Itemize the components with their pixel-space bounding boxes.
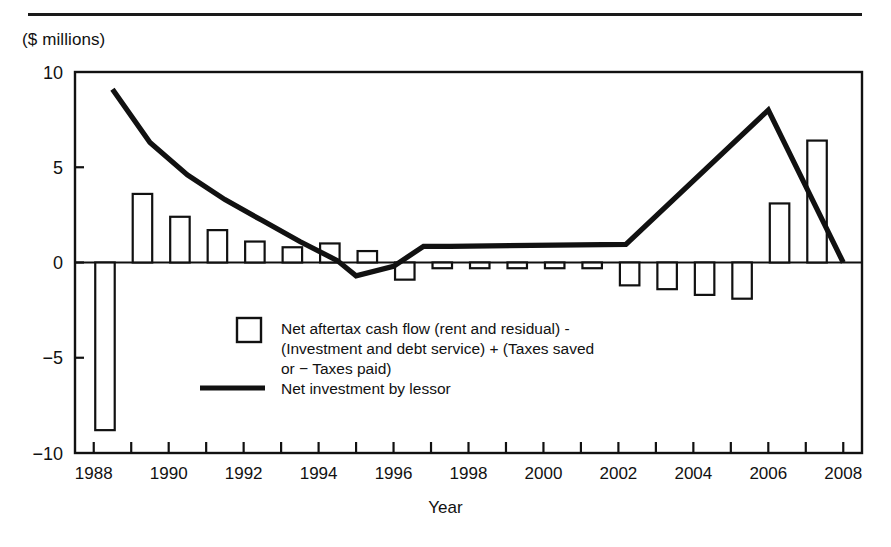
bar-1992 <box>245 242 264 263</box>
x-axis-tick-label: 2008 <box>824 464 862 483</box>
bar-2005 <box>732 263 751 299</box>
x-axis-title: Year <box>0 498 891 518</box>
bar-2002 <box>620 263 639 286</box>
x-axis-tick-label: 2000 <box>525 464 563 483</box>
bar-1995 <box>358 251 377 262</box>
figure-container: ($ millions) 1050−5−10198819901992199419… <box>0 0 891 547</box>
bar-1990 <box>170 217 189 263</box>
y-axis-tick-label: −10 <box>32 444 63 464</box>
bar-1991 <box>208 230 227 262</box>
bar-1998 <box>470 263 489 269</box>
legend-label-cash-flow-line3: or − Taxes paid) <box>281 360 391 377</box>
bar-2000 <box>545 263 564 269</box>
bar-2006 <box>770 203 789 262</box>
y-axis-tick-label: 10 <box>43 63 63 83</box>
chart-svg: 1050−5−101988199019921994199619982000200… <box>0 0 891 547</box>
bar-2003 <box>657 263 676 290</box>
bar-2007 <box>807 141 826 263</box>
legend-label-net-investment: Net investment by lessor <box>281 380 451 397</box>
x-axis-tick-label: 1992 <box>225 464 263 483</box>
x-axis-tick-label: 1998 <box>450 464 488 483</box>
bar-1993 <box>283 247 302 262</box>
bar-2004 <box>695 263 714 295</box>
x-axis-tick-label: 1988 <box>75 464 113 483</box>
bar-1999 <box>507 263 526 269</box>
x-axis-tick-label: 2002 <box>599 464 637 483</box>
x-axis-tick-label: 1990 <box>150 464 188 483</box>
bar-1988 <box>95 263 114 431</box>
bar-1997 <box>433 263 452 269</box>
legend-label-cash-flow-line2: (Investment and debt service) + (Taxes s… <box>281 340 594 357</box>
x-axis-tick-label: 2004 <box>674 464 712 483</box>
y-axis-tick-label: 0 <box>53 253 63 273</box>
bar-1989 <box>133 194 152 263</box>
x-axis-tick-label: 2006 <box>749 464 787 483</box>
x-axis-tick-label: 1996 <box>375 464 413 483</box>
legend-bar-swatch <box>237 318 261 342</box>
bar-2001 <box>582 263 601 269</box>
x-axis-tick-label: 1994 <box>300 464 338 483</box>
y-axis-tick-label: 5 <box>53 158 63 178</box>
y-axis-tick-label: −5 <box>42 348 63 368</box>
legend-label-cash-flow-line1: Net aftertax cash flow (rent and residua… <box>281 320 570 337</box>
